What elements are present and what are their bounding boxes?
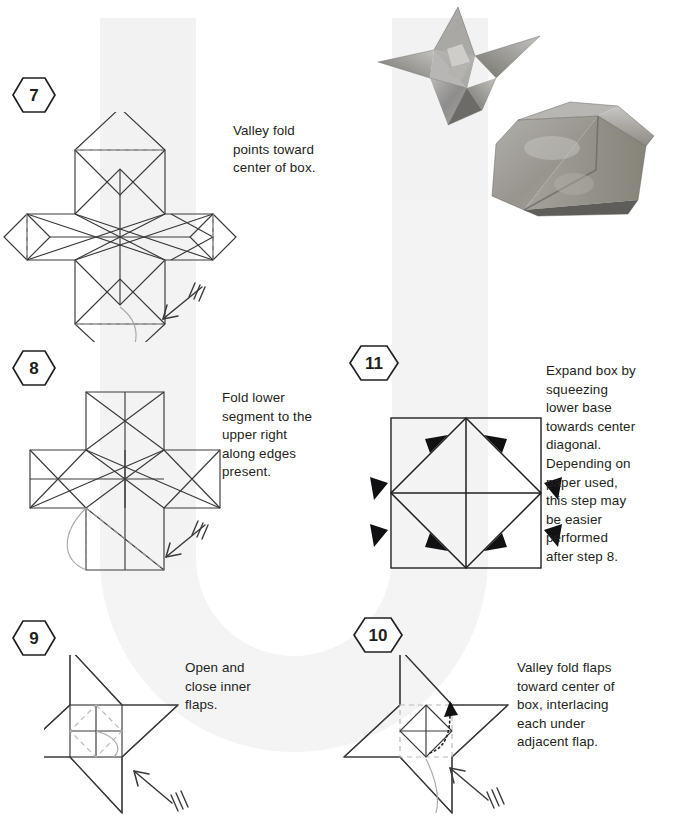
step-9-caption: Open and close inner flaps. — [185, 659, 295, 715]
step-8-diagram — [12, 382, 242, 606]
step-badge-10-number: 10 — [369, 626, 388, 645]
step-badge-9: 9 — [12, 619, 56, 657]
step-badge-11: 11 — [348, 344, 400, 382]
step-badge-8: 8 — [12, 349, 56, 387]
step-10-fold-arrow — [444, 762, 516, 814]
step-badge-10: 10 — [352, 616, 404, 654]
instruction-page: 7 — [0, 0, 680, 839]
step-badge-7: 7 — [12, 76, 56, 114]
step-9-fold-arrow — [128, 765, 200, 817]
step-8-fold-arrow — [148, 518, 218, 564]
step-7-fold-arrow — [145, 280, 215, 326]
step-badge-7-number: 7 — [29, 86, 38, 105]
step-11-caption: Expand box by squeezing lower base towar… — [546, 362, 676, 567]
step-10-caption: Valley fold flaps toward center of box, … — [517, 659, 657, 752]
photo-closed-box — [478, 84, 660, 224]
step-badge-9-number: 9 — [29, 629, 38, 648]
step-8-caption: Fold lower segment to the upper right al… — [222, 389, 344, 482]
step-badge-8-number: 8 — [29, 359, 38, 378]
step-badge-11-number: 11 — [365, 354, 383, 373]
step-7-caption: Valley fold points toward center of box. — [233, 122, 353, 178]
